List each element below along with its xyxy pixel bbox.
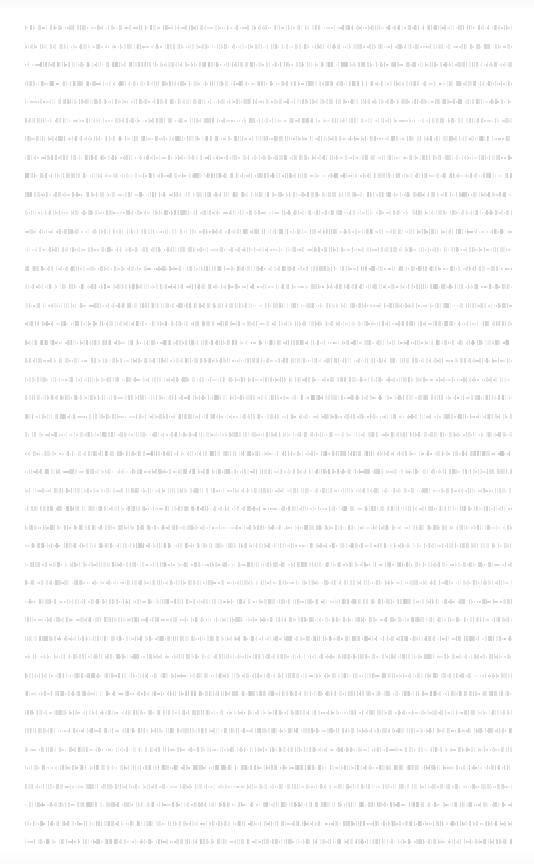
text-line [25,617,512,624]
text-line [25,654,512,661]
text-line [25,784,512,791]
text-line [25,173,512,180]
text-line [25,673,512,680]
text-line [25,525,512,532]
text-line [25,99,512,106]
text-line [25,155,512,162]
text-line [25,469,512,476]
text-line [25,562,512,569]
text-line [25,284,512,291]
text-line [25,451,512,458]
text-line [25,25,512,32]
text-line [25,691,512,698]
text-line [25,839,512,846]
text-line [25,81,512,88]
text-line [25,506,512,513]
text-line [25,118,512,125]
text-line [25,636,512,643]
text-line [25,580,512,587]
text-line [25,432,512,439]
text-line [25,229,512,236]
text-line [25,247,512,254]
text-line [25,488,512,495]
text-line [25,377,512,384]
text-line [25,599,512,606]
text-line [25,414,512,421]
text-line [25,728,512,735]
text-line [25,210,512,217]
text-line [25,358,512,365]
text-line [25,395,512,402]
text-line [25,136,512,143]
text-line [25,543,512,550]
text-line [25,62,512,69]
text-line [25,747,512,754]
document-page [0,0,534,864]
text-line [25,44,512,51]
text-line [25,340,512,347]
text-line [25,710,512,717]
text-line [25,802,512,809]
text-line [25,765,512,772]
text-line [25,266,512,273]
text-line [25,192,512,199]
text-line [25,821,512,828]
text-line [25,321,512,328]
text-line [25,303,512,310]
